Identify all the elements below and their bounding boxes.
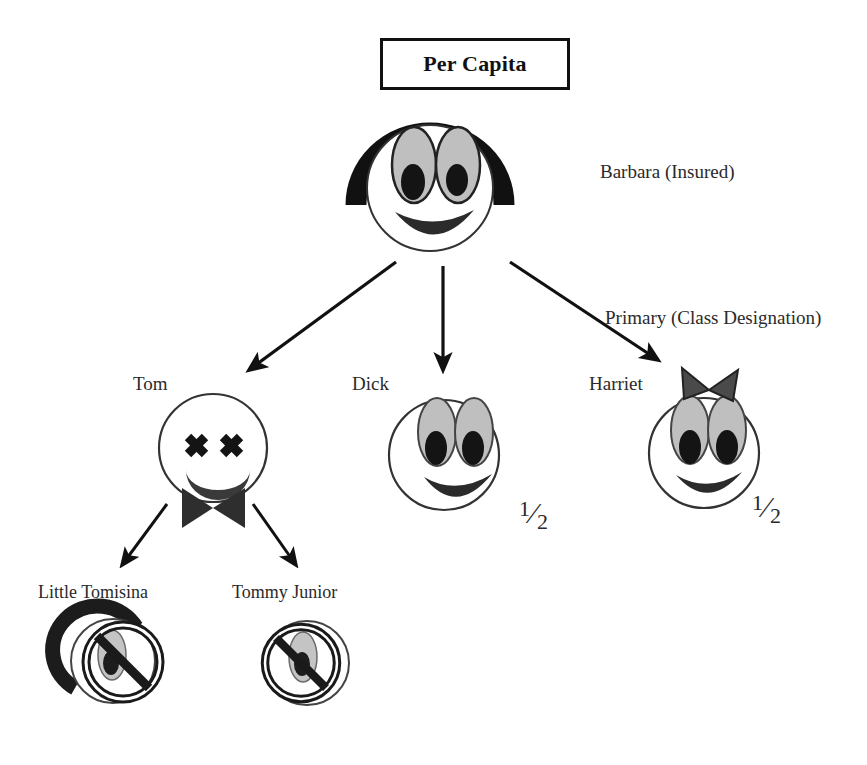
x-eye-left-icon bbox=[188, 437, 205, 454]
edge-barbara-to-tom bbox=[249, 262, 396, 370]
label-tommy-junior: Tommy Junior bbox=[232, 583, 337, 601]
label-tom: Tom bbox=[133, 374, 168, 393]
diagram-canvas: Per Capita bbox=[0, 0, 867, 765]
share-dick-slash: ⁄ bbox=[530, 496, 537, 529]
node-face-tommy-junior bbox=[265, 621, 349, 705]
share-dick-denominator: 2 bbox=[537, 509, 548, 534]
share-dick-numerator: 1 bbox=[519, 496, 530, 521]
share-harriet-slash: ⁄ bbox=[763, 490, 770, 523]
node-face-barbara bbox=[356, 125, 504, 251]
node-face-tom bbox=[159, 394, 267, 528]
hair-bow-icon bbox=[682, 368, 738, 401]
edge-tom-to-little-tomisina bbox=[122, 504, 167, 565]
node-face-dick bbox=[389, 398, 499, 510]
label-dick: Dick bbox=[352, 374, 389, 393]
share-harriet: 1⁄2 bbox=[752, 492, 781, 527]
share-harriet-denominator: 2 bbox=[770, 503, 781, 528]
label-class-designation: Primary (Class Designation) bbox=[605, 308, 821, 327]
label-little-tomisina: Little Tomisina bbox=[38, 583, 148, 601]
node-face-harriet bbox=[649, 368, 759, 508]
edge-tom-to-tommy-junior bbox=[253, 504, 296, 565]
label-barbara: Barbara (Insured) bbox=[600, 162, 735, 181]
x-eye-right-icon bbox=[223, 437, 240, 454]
share-harriet-numerator: 1 bbox=[752, 490, 763, 515]
share-dick: 1⁄2 bbox=[519, 498, 548, 533]
diagram-artwork bbox=[0, 0, 867, 765]
label-harriet: Harriet bbox=[589, 374, 643, 393]
node-face-little-tomisina bbox=[53, 606, 160, 703]
